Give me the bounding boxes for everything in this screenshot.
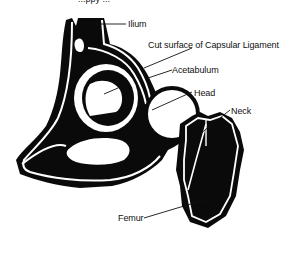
label-head: Head	[194, 88, 215, 98]
acetabulum-leader	[148, 70, 172, 78]
caption-partial: ...ppy ...	[78, 0, 110, 4]
label-capsular-ligament: Cut surface of Capsular Ligament	[148, 40, 279, 50]
acetabulum-surface	[86, 81, 123, 116]
label-neck: Neck	[231, 106, 251, 116]
hip-joint-illustration	[0, 0, 298, 257]
label-ilium: Ilium	[128, 19, 147, 29]
label-acetabulum: Acetabulum	[172, 65, 219, 75]
hip-joint-diagram: ...ppy ... Ilium Cut surfa	[0, 0, 298, 257]
label-femur: Femur	[118, 213, 144, 223]
